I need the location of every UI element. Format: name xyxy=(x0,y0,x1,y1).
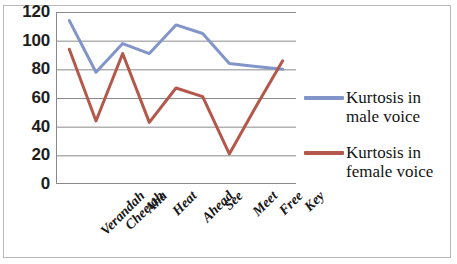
y-tick-label: 100 xyxy=(22,31,50,51)
x-tick-label: Meet xyxy=(250,188,282,220)
y-tick-label: 40 xyxy=(31,117,50,137)
legend-color-swatch xyxy=(304,96,344,100)
legend-color-swatch xyxy=(304,151,344,155)
chart-body: 120100806040200 VerandahCheetahAhaHeatAh… xyxy=(4,6,450,257)
y-tick-label: 20 xyxy=(31,145,50,165)
legend-entry[interactable]: Kurtosis in female voice xyxy=(304,143,450,181)
line-chart-svg xyxy=(56,12,296,184)
x-tick-label: Heat xyxy=(170,188,201,219)
y-axis: 120100806040200 xyxy=(10,12,52,184)
legend-label: Kurtosis in male voice xyxy=(346,88,446,126)
series-line xyxy=(69,21,282,73)
y-tick-label: 60 xyxy=(31,88,50,108)
legend: Kurtosis in male voiceKurtosis in female… xyxy=(304,88,450,198)
y-tick-label: 120 xyxy=(22,2,50,22)
series-lines xyxy=(69,21,282,154)
x-axis: VerandahCheetahAhaHeatAheadSeeMeetFreeKe… xyxy=(56,184,296,252)
y-tick-label: 80 xyxy=(31,59,50,79)
plot-area xyxy=(56,12,296,184)
y-tick-label: 0 xyxy=(41,174,50,194)
legend-entry[interactable]: Kurtosis in male voice xyxy=(304,88,450,126)
plot-region: 120100806040200 VerandahCheetahAhaHeatAh… xyxy=(10,12,302,252)
gridlines xyxy=(56,13,296,156)
legend-label: Kurtosis in female voice xyxy=(346,143,446,181)
chart-figure: 120100806040200 VerandahCheetahAhaHeatAh… xyxy=(3,5,451,258)
